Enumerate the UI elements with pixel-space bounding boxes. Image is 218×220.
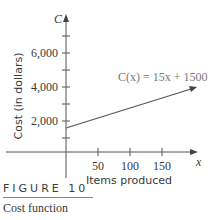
y-tick-label-6000: 6,000 — [31, 46, 58, 60]
cost-function-line — [66, 89, 191, 128]
x-tick-label-50: 50 — [92, 159, 104, 173]
x-axis-title: Items produced — [86, 174, 172, 187]
y-axis-arrow-icon — [63, 14, 69, 22]
x-axis-letter: x — [195, 155, 202, 169]
line-arrow-icon — [189, 86, 197, 92]
x-tick-label-100: 100 — [121, 159, 139, 173]
y-tick-label-4000: 4,000 — [31, 80, 58, 94]
figure: C x 2,000 4,000 6,000 50 100 150 Items p… — [0, 0, 218, 220]
y-tick-label-2000: 2,000 — [31, 114, 58, 128]
equation-label: C(x) = 15x + 1500 — [118, 70, 208, 84]
figure-subtitle: Cost function — [3, 201, 68, 216]
figure-label: FIGURE 10 — [3, 182, 88, 195]
y-axis-title: Cost (in dollars) — [12, 53, 25, 140]
caption-divider — [3, 197, 93, 198]
x-tick-label-150: 150 — [153, 159, 171, 173]
y-axis-letter: C — [54, 12, 63, 26]
